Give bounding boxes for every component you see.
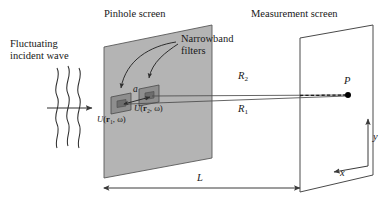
distance-label-R2: R2: [238, 70, 248, 83]
measurement-screen-label: Measurement screen: [251, 8, 338, 20]
figure-canvas: Fluctuating incident wave Pinhole screen…: [0, 0, 387, 208]
point-P-marker: [345, 92, 351, 98]
distance-label-R1: R1: [238, 103, 248, 116]
pinhole-screen-label: Pinhole screen: [104, 8, 166, 20]
dashed-line-to-P: [300, 95, 345, 96]
incident-wave-glyph: [56, 66, 81, 148]
R2-subscript: 2: [244, 75, 248, 83]
x-axis-label: x: [340, 167, 345, 179]
narrowband-filters-label: Narrowband filters: [181, 33, 233, 57]
distance-L-label: L: [197, 172, 203, 184]
field-label-r1: U(r1, ω): [97, 115, 126, 125]
narrowband-line1: Narrowband: [181, 33, 233, 44]
R1-subscript: 1: [244, 108, 248, 116]
point-P-label: P: [344, 75, 350, 87]
narrowband-line2: filters: [181, 45, 206, 56]
field-label-r2: U(r2, ω): [134, 104, 163, 114]
incident-wave-line2: incident wave: [10, 50, 69, 61]
y-axis-label: y: [373, 131, 378, 143]
incident-wave-line1: Fluctuating: [10, 38, 58, 49]
separation-label-a: a: [133, 84, 138, 95]
diagram-svg: [0, 0, 387, 208]
incident-wave-label: Fluctuating incident wave: [10, 38, 69, 62]
pinhole-1: [111, 93, 131, 114]
